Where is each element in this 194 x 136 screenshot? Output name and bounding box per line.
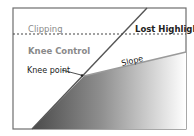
knee-point-label: Knee point [27,66,70,75]
lost-highlights-label: Lost Highlights [135,24,194,34]
knee-control-label: Knee Control [28,46,90,56]
clipping-label: Clipping [28,24,63,34]
knee-point-marker [81,74,84,77]
knee-control-diagram: Clipping Lost Highlights Knee Control Kn… [0,0,194,136]
